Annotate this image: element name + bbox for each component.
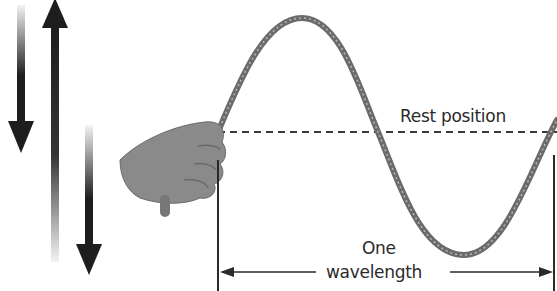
down-arrow-left-icon [8,5,34,153]
rope-wave [218,18,557,255]
diagram-graphics [0,0,557,291]
wave-diagram: Rest position One wavelength [0,0,557,291]
down-arrow-right-icon [76,125,102,275]
wavelength-label-line1: One [362,238,396,258]
hand-icon [120,122,226,217]
up-arrow-long-icon [42,0,68,262]
wavelength-label-line2: wavelength [326,262,422,282]
rest-position-label: Rest position [400,106,506,126]
